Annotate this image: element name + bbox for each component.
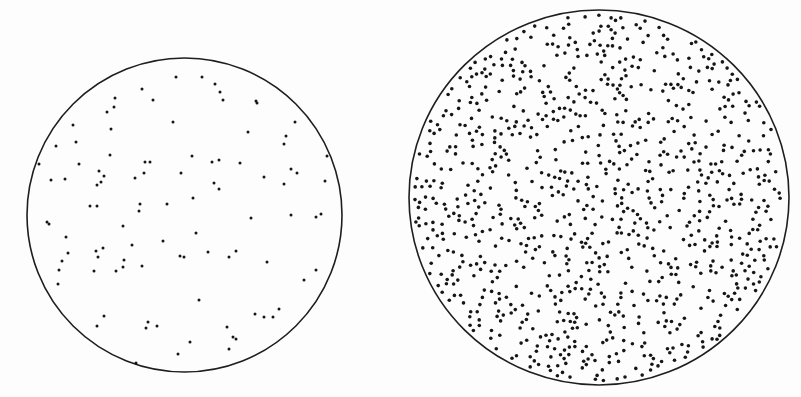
particle-dot [643,19,647,23]
particle-dot [452,250,456,254]
particle-dot [581,136,585,140]
particle-dot [490,158,494,162]
particle-dot [594,378,598,382]
particle-dot [538,245,542,249]
particle-dot [115,270,118,273]
particle-dot [459,294,463,298]
particle-dot [569,129,573,133]
particle-dot [425,179,429,183]
particle-dot [618,151,622,155]
particle-dot [623,375,627,379]
particle-dot [607,24,611,28]
particle-dot [567,258,571,262]
particle-dot [460,254,464,258]
particle-dot [611,44,615,48]
particle-dot [747,265,751,269]
particle-dot [544,334,548,338]
particle-dot [618,167,622,171]
particle-dot [704,182,708,186]
particle-dot [550,185,554,189]
particle-dot [561,193,565,197]
particle-dot [714,162,718,166]
particle-dot [556,374,560,378]
particle-dot [774,170,778,174]
particle-dot [509,311,513,315]
particle-dot [746,254,750,258]
particle-dot [294,121,297,124]
particle-dot [539,335,543,339]
particle-dot [758,223,762,227]
particle-dot [500,222,504,226]
particle-dot [75,141,78,144]
particle-dot [619,217,623,221]
particle-dot [747,119,751,123]
particle-dot [559,169,563,173]
particle-dot [682,196,686,200]
particle-dot [562,115,566,119]
particle-dot [456,205,460,209]
particle-dot [38,163,41,166]
particle-dot [566,16,570,20]
particle-dot [149,161,152,164]
particle-dot [429,119,433,123]
particle-dot [536,149,540,153]
particle-dot [663,325,667,329]
particle-dot [687,103,691,107]
particle-dot [634,23,638,27]
particle-dot [560,291,564,295]
particle-dot [326,155,329,158]
particle-dot [499,132,503,136]
particle-dot [738,298,742,302]
particle-dot [172,121,175,124]
particle-dot [433,162,437,166]
particle-dot [504,264,508,268]
particle-dot [722,149,726,153]
particle-dot [553,254,557,258]
particle-dot [78,163,81,166]
particle-dot [762,179,766,183]
particle-dot [540,213,544,217]
particle-dot [606,77,610,81]
particle-dot [218,159,221,162]
particle-dot [718,107,722,111]
particle-dot [548,339,552,343]
particle-dot [677,72,681,76]
particle-dot [710,241,714,245]
particle-dot [668,331,672,335]
particle-dot [478,125,482,129]
particle-dot [65,236,68,239]
particle-dot [542,95,546,99]
particle-dot [588,246,592,250]
particle-dot [156,325,159,328]
particle-dot [695,260,699,264]
particle-dot [445,282,449,286]
particle-dot [694,265,698,269]
particle-dot [470,218,474,222]
particle-dot [448,298,452,302]
particle-dot [601,341,605,345]
particle-dot [67,252,70,255]
particle-dot [665,296,669,300]
particle-dot [515,37,519,41]
particle-dot [671,169,675,173]
particle-dot [513,47,517,51]
particle-dot [478,324,482,328]
particle-dot [418,152,422,156]
particle-dot [495,315,499,319]
particle-dot [573,345,577,349]
particle-dot [693,243,697,247]
particle-dot [594,251,598,255]
particle-dot [574,41,578,45]
particle-dot [475,102,479,106]
particle-dot [719,313,723,317]
particle-dot [552,33,556,37]
particle-dot [515,260,519,264]
particle-dot [195,232,198,235]
particle-dot [595,374,599,378]
particle-dot [587,269,591,273]
particle-dot [710,170,714,174]
particle-dot [547,85,551,89]
particle-dot [595,101,599,105]
particle-dot [606,44,610,48]
particle-dot [672,86,676,90]
